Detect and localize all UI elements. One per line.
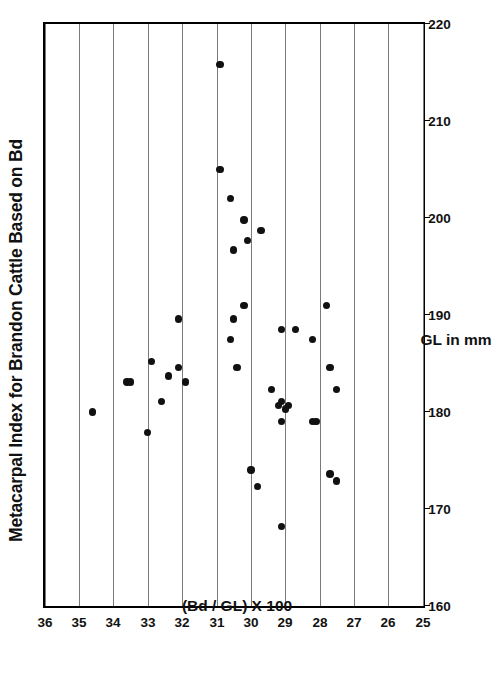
y-tick-text: 32	[175, 615, 190, 630]
data-point	[282, 405, 289, 412]
y-tick-label-29: 29	[278, 615, 293, 630]
gridline-index-28	[320, 24, 321, 606]
data-point	[257, 227, 264, 234]
y-tick-text: 30	[243, 615, 258, 630]
data-point	[175, 315, 182, 322]
gridline-index-30	[251, 24, 252, 606]
data-point	[323, 302, 330, 309]
data-point	[292, 326, 299, 333]
gridline-index-32	[182, 24, 183, 606]
gridline-index-34	[113, 24, 114, 606]
y-tick-label-35: 35	[72, 615, 87, 630]
data-point	[89, 408, 96, 415]
data-point	[240, 216, 247, 223]
y-tick-label-30: 30	[243, 615, 258, 630]
data-point	[144, 429, 151, 436]
data-point	[227, 336, 234, 343]
gridline-index-26	[388, 24, 389, 606]
y-tick-text: 25	[415, 615, 430, 630]
y-tick-text: 33	[140, 615, 155, 630]
y-tick-label-31: 31	[209, 615, 224, 630]
y-tick-text: 34	[106, 615, 121, 630]
gridline-index-31	[217, 24, 218, 606]
data-point	[227, 195, 234, 202]
data-point	[247, 467, 254, 474]
plot-area: 3635343332313029282726251601701801902002…	[43, 22, 425, 608]
chart-title: Metacarpal Index for Brandon Cattle Base…	[6, 0, 27, 681]
x-tick-text: 170	[428, 502, 451, 517]
data-point	[254, 483, 261, 490]
y-tick-text: 31	[209, 615, 224, 630]
data-point	[333, 386, 340, 393]
data-point	[230, 246, 237, 253]
y-tick-text: 35	[72, 615, 87, 630]
y-tick-label-25: 25	[415, 615, 430, 630]
y-tick-label-36: 36	[37, 615, 52, 630]
y-tick-text: 26	[381, 615, 396, 630]
data-point	[127, 378, 134, 385]
x-tick-text: 210	[428, 114, 451, 129]
y-tick-text: 27	[346, 615, 361, 630]
x-tick-label-220: 220	[432, 13, 447, 36]
data-point	[230, 315, 237, 322]
y-tick-text: 36	[37, 615, 52, 630]
y-tick-label-33: 33	[140, 615, 155, 630]
gridline-index-36	[45, 24, 46, 606]
data-point	[158, 398, 165, 405]
y-tick-label-28: 28	[312, 615, 327, 630]
x-tick-label-160: 160	[432, 595, 447, 618]
gridline-index-29	[285, 24, 286, 606]
data-point	[216, 61, 223, 68]
x-tick-text: 180	[428, 405, 451, 420]
data-point	[233, 364, 240, 371]
data-point	[165, 372, 172, 379]
data-point	[148, 358, 155, 365]
gridline-index-25	[423, 24, 424, 606]
data-point	[182, 378, 189, 385]
y-tick-label-26: 26	[381, 615, 396, 630]
data-point	[309, 336, 316, 343]
data-point	[275, 402, 282, 409]
y-tick-label-27: 27	[346, 615, 361, 630]
data-point	[326, 470, 333, 477]
gridline-index-33	[148, 24, 149, 606]
gridline-index-35	[79, 24, 80, 606]
x-tick-label-180: 180	[432, 401, 447, 424]
x-tick-label-210: 210	[432, 110, 447, 133]
data-point	[333, 477, 340, 484]
x-tick-label-200: 200	[432, 207, 447, 230]
data-point	[240, 302, 247, 309]
data-point	[268, 386, 275, 393]
x-tick-label-190: 190	[432, 304, 447, 327]
y-tick-text: 28	[312, 615, 327, 630]
x-tick-text: 190	[428, 308, 451, 323]
y-axis-title: (Bd / GL) X 100	[181, 597, 291, 615]
x-axis-title: GL in mm	[420, 332, 491, 350]
y-tick-label-34: 34	[106, 615, 121, 630]
y-tick-text: 29	[278, 615, 293, 630]
data-point	[216, 166, 223, 173]
y-tick-label-32: 32	[175, 615, 190, 630]
x-tick-text: 200	[428, 211, 451, 226]
data-point	[326, 364, 333, 371]
x-tick-text: 220	[428, 17, 451, 32]
data-point	[244, 237, 251, 244]
x-tick-label-170: 170	[432, 498, 447, 521]
gridline-index-27	[354, 24, 355, 606]
x-tick-text: 160	[428, 599, 451, 614]
